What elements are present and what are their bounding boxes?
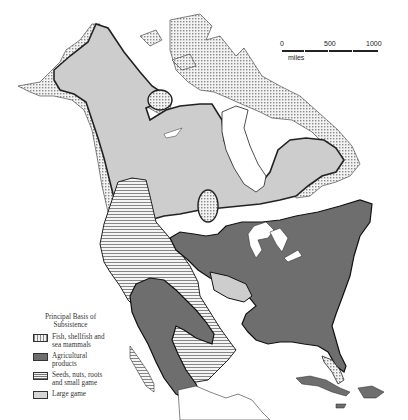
mexico-outline	[178, 386, 270, 420]
legend-item-fish: Fish, shellfish and sea mammals	[33, 333, 108, 349]
scale-gap	[352, 49, 353, 53]
enclave-plateau	[198, 190, 218, 222]
legend-item-large-game: Large game	[33, 390, 108, 399]
legend-label: Large game	[52, 390, 108, 398]
scale-unit: miles	[288, 54, 304, 61]
legend-label: Seeds, nuts, roots and small game	[52, 371, 108, 387]
scale-bar: 0 500 1000 miles	[278, 40, 390, 66]
enclave-north	[148, 90, 172, 110]
scale-gap	[304, 49, 305, 53]
legend-title: Principal Basis of Subsistence	[33, 313, 108, 329]
scale-line	[282, 50, 378, 52]
legend-item-agriculture: Agricultural products	[33, 352, 108, 368]
dotted-swatch-icon	[33, 334, 48, 342]
scale-tick-0: 0	[280, 40, 284, 47]
legend-label: Fish, shellfish and sea mammals	[52, 333, 108, 349]
dark-swatch-icon	[33, 353, 48, 361]
lined-swatch-icon	[33, 372, 48, 380]
baja	[130, 346, 154, 392]
legend-label: Agricultural products	[52, 352, 108, 368]
light-swatch-icon	[33, 391, 48, 399]
scale-gap	[328, 49, 329, 53]
legend-item-seeds: Seeds, nuts, roots and small game	[33, 371, 108, 387]
scale-tick-500: 500	[324, 40, 336, 47]
scale-tick-1000: 1000	[366, 40, 382, 47]
legend: Principal Basis of Subsistence Fish, she…	[33, 313, 108, 402]
